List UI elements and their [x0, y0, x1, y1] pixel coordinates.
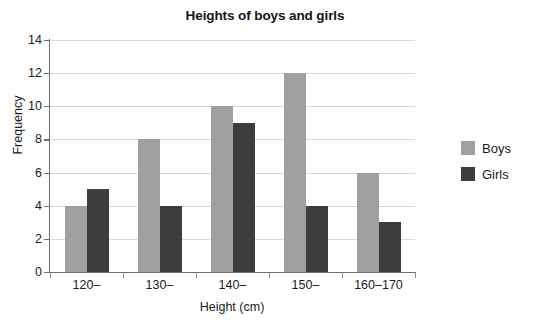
legend-swatch-icon	[461, 141, 475, 155]
bar	[138, 139, 160, 272]
y-axis-tick	[44, 173, 50, 174]
bar	[233, 123, 255, 272]
x-axis-label: Height (cm)	[142, 300, 322, 314]
bar	[87, 189, 109, 272]
bar	[357, 173, 379, 272]
bar	[65, 206, 87, 272]
legend-item-boys[interactable]: Boys	[461, 135, 537, 161]
y-axis-tick	[44, 139, 50, 140]
gridline	[50, 106, 415, 107]
chart-figure: Heights of boys and girls 02468101214 12…	[0, 0, 537, 335]
y-axis-tick	[44, 206, 50, 207]
legend-label: Boys	[482, 141, 511, 156]
chart-title: Heights of boys and girls	[50, 8, 480, 23]
y-axis-tick-label: 14	[2, 34, 42, 47]
bar	[211, 106, 233, 272]
gridline	[50, 40, 415, 41]
y-axis-label: Frequency	[11, 55, 25, 195]
bar	[160, 206, 182, 272]
plot-area	[50, 40, 415, 272]
y-axis-tick	[44, 239, 50, 240]
bar	[306, 206, 328, 272]
bar	[379, 222, 401, 272]
y-axis-tick	[44, 40, 50, 41]
legend-swatch-icon	[461, 167, 475, 181]
y-axis-tick	[44, 73, 50, 74]
y-axis-tick-label: 2	[2, 233, 42, 246]
chart-legend: BoysGirls	[461, 135, 537, 187]
y-axis-tick-label: 0	[2, 266, 42, 279]
bar	[284, 73, 306, 272]
legend-item-girls[interactable]: Girls	[461, 161, 537, 187]
y-axis-tick	[44, 106, 50, 107]
gridline	[50, 73, 415, 74]
legend-label: Girls	[482, 167, 509, 182]
x-axis-tick-label: 160–170	[334, 278, 424, 292]
y-axis-tick-label: 4	[2, 199, 42, 212]
